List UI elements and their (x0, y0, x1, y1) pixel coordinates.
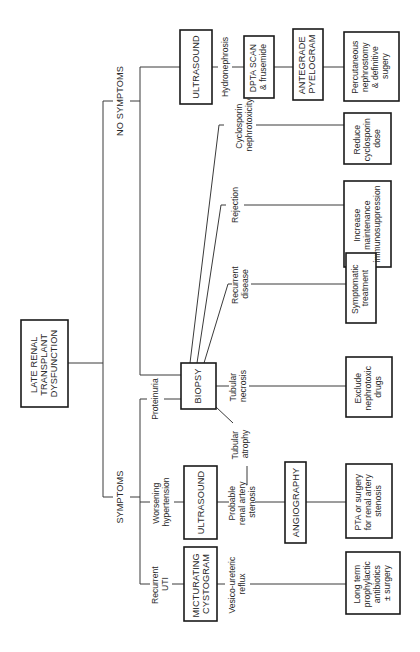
long-term-antibiotics-label: Long term prophylactic antibiotics ± sur… (352, 559, 392, 607)
boxes (21, 29, 400, 621)
cyclosporin-nephrotoxicity-label: Cyclosporin nephrotoxicity (234, 98, 254, 152)
ultrasound-label-no-symptoms: ULTRASOUND (191, 35, 201, 99)
antegrade-pyelogram-label: ANTEGRADE PYELOGRAM (297, 34, 317, 95)
recurrent-uti-label: Recurrent UTI (150, 564, 170, 604)
tubular-atrophy-label: Tubular atrophy (230, 428, 250, 459)
root-label: LATE RENAL TRANSPLANT DYSFUNCTION (29, 330, 59, 397)
hydronephrosis-label: Hydronephrosis (220, 37, 230, 97)
vesico-ureteric-reflux-label: Vesico-ureteric reflux (227, 554, 247, 613)
flowchart-canvas: LATE RENAL TRANSPLANT DYSFUNCTION NO SYM… (0, 0, 420, 652)
tubular-necrosis-label: Tubular necrosis (228, 370, 248, 402)
dpta-scan-label: DPTA SCAN & frusemide (248, 42, 268, 92)
recurrent-disease-label: Recurrent disease (230, 264, 250, 304)
rejection-label: Rejection (230, 187, 240, 223)
angiography-label: ANGIOGRAPHY (291, 468, 301, 538)
biopsy-label: BIOPSY (193, 369, 203, 404)
worsening-hypertension-label: Worsening hypertension (151, 477, 171, 526)
flowchart-svg: LATE RENAL TRANSPLANT DYSFUNCTION NO SYM… (0, 0, 420, 652)
proteinuria-label: Proteinuria (150, 378, 160, 420)
ultrasound-label-symptoms: ULTRASOUND (196, 470, 206, 534)
symptoms-label: SYMPTOMS (115, 470, 125, 523)
micturating-cystogram-label: MICTURATING CYSTOGRAM (191, 551, 211, 618)
renal-artery-stenosis-label: Probable renal artery stenosis (227, 479, 257, 525)
no-symptoms-label: NO SYMPTOMS (115, 66, 125, 136)
